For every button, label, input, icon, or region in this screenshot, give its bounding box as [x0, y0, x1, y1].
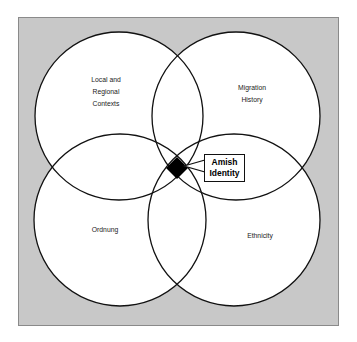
label-line: Regional: [81, 86, 132, 98]
label-line: Contexts: [81, 98, 132, 110]
label-line: Ethnicity: [235, 230, 286, 242]
label-ordnung: Ordnung: [80, 224, 131, 236]
venn-diagram: [0, 0, 357, 342]
label-line: History: [227, 94, 278, 106]
label-line: Migration: [227, 82, 278, 94]
label-line: Ordnung: [80, 224, 131, 236]
callout-line: Amish: [205, 157, 244, 168]
label-migration-history: Migration History: [227, 82, 278, 106]
callout-line: Identity: [205, 168, 244, 179]
label-local-regional-contexts: Local and Regional Contexts: [81, 74, 132, 110]
label-ethnicity: Ethnicity: [235, 230, 286, 242]
amish-identity-callout: Amish Identity: [204, 154, 245, 182]
label-line: Local and: [81, 74, 132, 86]
